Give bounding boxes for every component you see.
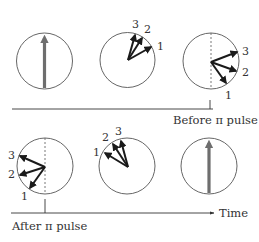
spin-vector-3	[20, 156, 45, 167]
spin-label-1: 1	[225, 89, 232, 102]
time-axis-label: Time	[219, 206, 248, 220]
panel-refocusing: 3 2 1	[93, 125, 155, 194]
panel-dephasing: 3 2 1	[100, 18, 164, 88]
spin-label-1: 1	[21, 190, 28, 203]
spin-label-3: 3	[8, 149, 15, 162]
panel-initial	[17, 33, 73, 89]
spin-echo-diagram: 3 2 1 3 2 1 Before π pulse 3 2 1 3 2 1	[0, 0, 259, 242]
spin-label-2: 2	[8, 168, 15, 181]
spin-label-2: 2	[144, 23, 151, 36]
spin-vector-3	[211, 52, 237, 62]
spin-label-3: 3	[242, 45, 249, 58]
panel-after-pulse: 3 2 1	[8, 138, 73, 203]
after-pulse-label: After π pulse	[11, 219, 88, 233]
spin-label-1: 1	[93, 146, 100, 159]
spin-label-2: 2	[242, 66, 249, 79]
panel-before-pulse: 3 2 1	[183, 33, 249, 102]
bloch-circle	[100, 33, 155, 88]
panel-echo	[181, 138, 237, 194]
before-pulse-label: Before π pulse	[173, 113, 258, 127]
spin-label-2: 2	[102, 131, 109, 144]
spin-label-3: 3	[132, 18, 139, 31]
spin-label-3: 3	[115, 125, 122, 138]
spin-label-1: 1	[157, 40, 164, 53]
